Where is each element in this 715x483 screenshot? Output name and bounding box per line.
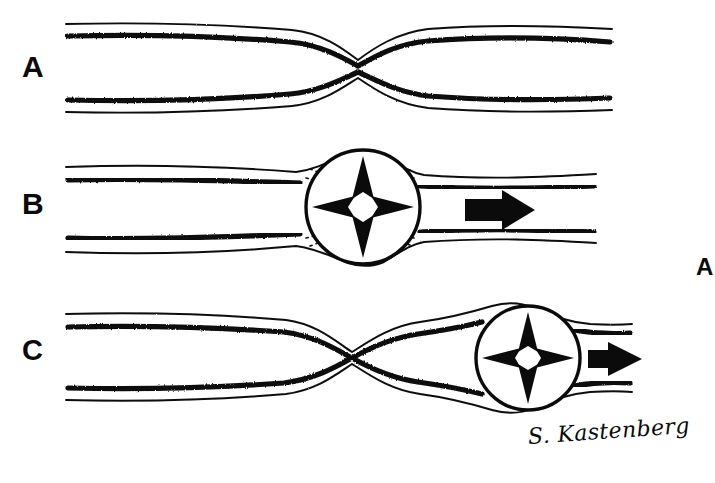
vessel-intima-top-distal bbox=[574, 330, 630, 334]
panel-c-group bbox=[66, 303, 642, 413]
vessel-intima-top bbox=[68, 35, 610, 66]
figure-canvas bbox=[0, 0, 715, 483]
vessel-intima-top-proximal bbox=[68, 179, 300, 183]
flow-direction-arrow-icon bbox=[465, 190, 535, 230]
panel-label-c: C bbox=[22, 336, 43, 365]
vessel-intima-bottom-distal bbox=[574, 382, 630, 386]
panel-label-b: B bbox=[22, 189, 44, 219]
panel-b-group bbox=[66, 150, 596, 266]
vessel-intima-bottom-proximal bbox=[68, 358, 482, 394]
angioplasty-figure: A B C A S. Kastenberg bbox=[0, 0, 715, 483]
panel-a-group bbox=[66, 23, 612, 112]
flow-direction-arrow-icon bbox=[588, 342, 642, 376]
vessel-intima-bottom-distal bbox=[420, 230, 594, 232]
vessel-intima-top-proximal bbox=[68, 322, 482, 358]
vessel-intima-top-distal bbox=[420, 186, 594, 188]
vessel-intima-bottom bbox=[68, 72, 610, 101]
vessel-intima-bottom-proximal bbox=[68, 234, 300, 239]
panel-label-a: A bbox=[22, 52, 44, 82]
corner-figure-label: A bbox=[696, 255, 713, 279]
